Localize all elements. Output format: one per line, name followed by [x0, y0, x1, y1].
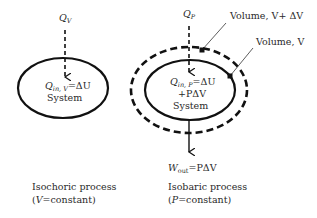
caption-isobaric: Isobaric process	[168, 181, 247, 192]
heat-in-label-left: QV	[59, 12, 72, 27]
leader-dot-outer	[200, 48, 205, 53]
caption-isobaric-condition: (P=constant)	[168, 194, 231, 205]
leader-dot-inner	[228, 74, 233, 79]
leader-outer-volume	[202, 23, 226, 50]
volume-inner-label: Volume, V	[256, 36, 304, 47]
system-label-right: System	[173, 100, 208, 111]
system-label-left: System	[47, 92, 82, 103]
caption-isochoric: Isochoric process	[32, 181, 116, 192]
work-out-label: Wout=PΔV	[168, 162, 217, 177]
volume-outer-label: Volume, V+ ΔV	[230, 10, 303, 21]
isochoric-diagram	[18, 30, 108, 118]
equation-right-line2: +PΔV	[178, 88, 206, 99]
heat-in-label-right: QP	[183, 8, 195, 23]
caption-isochoric-condition: (V=constant)	[32, 194, 96, 205]
